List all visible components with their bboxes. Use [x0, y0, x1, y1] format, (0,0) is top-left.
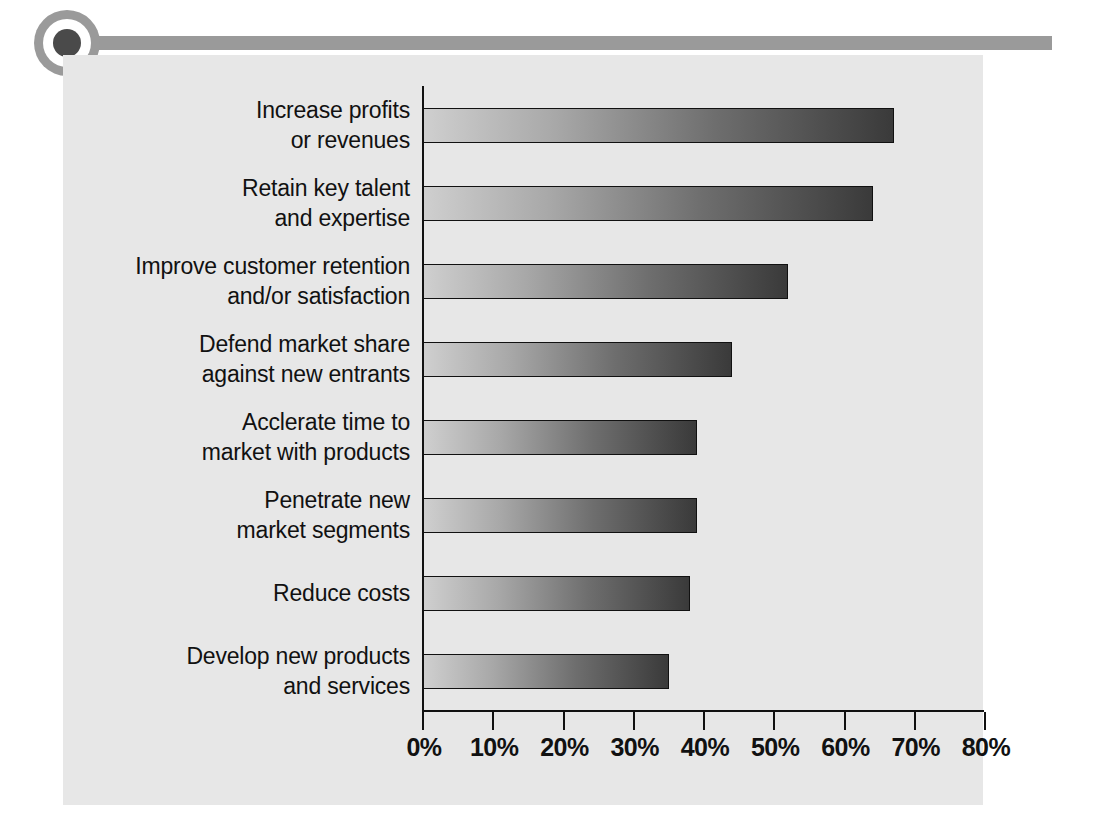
- category-label: Improve customer retentionand/or satisfa…: [10, 242, 410, 319]
- chart-panel: Increase profitsor revenuesRetain key ta…: [63, 55, 983, 805]
- axis-tick: [422, 712, 424, 730]
- axis-tick: [703, 712, 705, 730]
- category-label-line: market with products: [202, 437, 410, 467]
- category-label: Increase profitsor revenues: [10, 86, 410, 163]
- chart-row: Penetrate newmarket segments: [63, 476, 983, 553]
- axis-tick: [984, 712, 986, 730]
- axis-tick-label: 50%: [735, 733, 815, 762]
- axis-tick: [773, 712, 775, 730]
- axis-tick: [914, 712, 916, 730]
- chart-row: Increase profitsor revenues: [63, 86, 983, 163]
- category-label-line: or revenues: [291, 125, 410, 155]
- category-label: Defend market shareagainst new entrants: [10, 320, 410, 397]
- axis-tick-label: 80%: [946, 733, 1026, 762]
- category-label-line: Retain key talent: [242, 173, 410, 203]
- axis-tick-label: 10%: [454, 733, 534, 762]
- bar[interactable]: [423, 264, 788, 299]
- category-label-line: Reduce costs: [273, 578, 410, 608]
- category-label: Acclerate time tomarket with products: [10, 398, 410, 475]
- bar[interactable]: [423, 186, 873, 221]
- category-label-line: market segments: [237, 515, 410, 545]
- axis-tick-label: 70%: [876, 733, 956, 762]
- category-label-line: Acclerate time to: [242, 407, 410, 437]
- bar[interactable]: [423, 654, 669, 689]
- category-label: Retain key talentand expertise: [10, 164, 410, 241]
- category-label-line: Improve customer retention: [135, 251, 410, 281]
- chart-row: Improve customer retentionand/or satisfa…: [63, 242, 983, 319]
- category-label: Penetrate newmarket segments: [10, 476, 410, 553]
- axis-tick-label: 60%: [806, 733, 886, 762]
- chart-row: Retain key talentand expertise: [63, 164, 983, 241]
- axis-tick-label: 0%: [384, 733, 464, 762]
- bar-chart-plot: Increase profitsor revenuesRetain key ta…: [63, 55, 983, 805]
- category-label-line: and expertise: [275, 203, 411, 233]
- category-label-line: and/or satisfaction: [227, 281, 410, 311]
- bar[interactable]: [423, 498, 697, 533]
- chart-row: Reduce costs: [63, 554, 983, 631]
- bar[interactable]: [423, 108, 894, 143]
- axis-tick-label: 30%: [595, 733, 675, 762]
- bar[interactable]: [423, 576, 690, 611]
- axis-tick: [563, 712, 565, 730]
- axis-tick-label: 40%: [665, 733, 745, 762]
- axis-tick-label: 20%: [525, 733, 605, 762]
- category-label-line: Increase profits: [256, 95, 410, 125]
- category-label: Reduce costs: [10, 554, 410, 631]
- axis-tick: [844, 712, 846, 730]
- axis-tick: [492, 712, 494, 730]
- axis-tick: [633, 712, 635, 730]
- category-label-line: against new entrants: [202, 359, 410, 389]
- bar[interactable]: [423, 342, 732, 377]
- header-rule: [88, 36, 1052, 50]
- category-label-line: and services: [283, 671, 410, 701]
- category-label-line: Penetrate new: [264, 485, 410, 515]
- category-label: Develop new productsand services: [10, 632, 410, 709]
- chart-row: Acclerate time tomarket with products: [63, 398, 983, 475]
- category-label-line: Defend market share: [199, 329, 410, 359]
- chart-row: Defend market shareagainst new entrants: [63, 320, 983, 397]
- bar[interactable]: [423, 420, 697, 455]
- category-label-line: Develop new products: [186, 641, 410, 671]
- chart-row: Develop new productsand services: [63, 632, 983, 709]
